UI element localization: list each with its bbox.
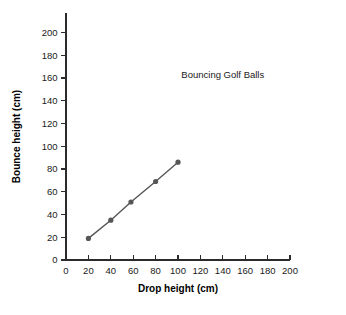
data-point-2 — [128, 199, 133, 204]
series-line-0 — [88, 162, 178, 238]
y-tick-label-200: 200 — [42, 27, 58, 38]
x-tick-label-140: 140 — [215, 265, 231, 276]
chart-container: 020406080100120140160180200 020406080100… — [0, 0, 346, 315]
x-tick-label-160: 160 — [237, 265, 253, 276]
bouncing-golf-balls-chart: 020406080100120140160180200 020406080100… — [0, 0, 346, 315]
y-tick-label-20: 20 — [47, 232, 58, 243]
chart-title: Bouncing Golf Balls — [181, 69, 264, 80]
data-point-3 — [153, 179, 158, 184]
x-tick-label-200: 200 — [282, 265, 298, 276]
x-axis: 020406080100120140160180200 — [63, 255, 298, 276]
x-tick-label-100: 100 — [170, 265, 186, 276]
y-tick-label-180: 180 — [42, 50, 58, 61]
x-tick-label-60: 60 — [128, 265, 139, 276]
y-axis: 020406080100120140160180200 — [42, 13, 66, 265]
y-axis-title: Bounce height (cm) — [11, 90, 22, 183]
y-tick-label-80: 80 — [47, 163, 58, 174]
x-tick-label-20: 20 — [83, 265, 94, 276]
x-tick-label-180: 180 — [260, 265, 276, 276]
y-tick-label-0: 0 — [52, 254, 57, 265]
x-tick-label-40: 40 — [106, 265, 117, 276]
y-tick-label-160: 160 — [42, 72, 58, 83]
y-tick-label-40: 40 — [47, 209, 58, 220]
y-tick-label-100: 100 — [42, 141, 58, 152]
data-point-4 — [175, 160, 180, 165]
data-point-0 — [86, 236, 91, 241]
data-point-1 — [108, 218, 113, 223]
x-tick-label-120: 120 — [192, 265, 208, 276]
data-series-line — [86, 160, 181, 241]
y-tick-label-60: 60 — [47, 186, 58, 197]
y-tick-label-120: 120 — [42, 118, 58, 129]
x-axis-title: Drop height (cm) — [138, 283, 218, 294]
x-tick-label-80: 80 — [150, 265, 161, 276]
y-tick-label-140: 140 — [42, 95, 58, 106]
x-tick-label-0: 0 — [63, 265, 68, 276]
